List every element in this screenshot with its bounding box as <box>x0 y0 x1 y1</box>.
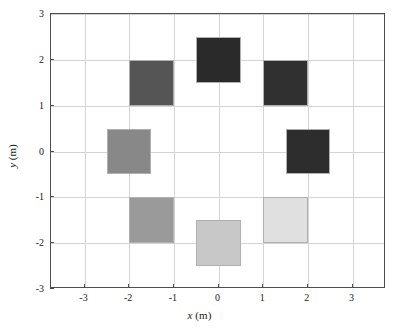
figure-canvas: -3-2-10123 -3-2-10123 x (m) y (m) <box>0 0 399 329</box>
y-tick-label: -1 <box>20 191 44 202</box>
x-tick-label: -3 <box>79 292 87 303</box>
x-axis-label: x (m) <box>0 309 399 321</box>
y-axis-label-unit: (m) <box>6 144 18 160</box>
data-square-right-middle <box>286 129 331 175</box>
x-tick-label: -2 <box>124 292 132 303</box>
gridline-vertical <box>174 14 175 287</box>
x-tick-label: 2 <box>304 292 309 303</box>
x-tick-mark <box>218 284 219 288</box>
x-tick-mark <box>128 284 129 288</box>
x-tick-label: 3 <box>349 292 354 303</box>
y-tick-label: 1 <box>20 99 44 110</box>
data-square-upper-left <box>129 60 174 106</box>
data-square-left-middle <box>107 129 152 175</box>
gridline-vertical <box>263 14 264 287</box>
x-tick-mark <box>352 284 353 288</box>
y-tick-label: -2 <box>20 237 44 248</box>
x-tick-label: 1 <box>260 292 265 303</box>
data-square-lower-right <box>263 197 308 243</box>
x-tick-label: 0 <box>215 292 220 303</box>
gridline-vertical <box>353 14 354 287</box>
y-tick-label: 0 <box>20 145 44 156</box>
y-tick-mark <box>50 105 54 106</box>
data-square-bottom-center <box>196 220 241 266</box>
y-tick-label: 3 <box>20 8 44 19</box>
x-tick-mark <box>307 284 308 288</box>
gridline-horizontal <box>51 152 384 153</box>
y-tick-mark <box>50 196 54 197</box>
y-tick-label: -3 <box>20 283 44 294</box>
x-axis-label-unit: (m) <box>195 309 211 321</box>
y-axis-label: y (m) <box>6 126 18 186</box>
data-square-lower-left <box>129 197 174 243</box>
gridline-horizontal <box>51 106 384 107</box>
x-tick-label: -1 <box>169 292 177 303</box>
y-tick-mark <box>50 242 54 243</box>
y-tick-mark <box>50 151 54 152</box>
data-square-top-center <box>196 37 241 83</box>
gridline-vertical <box>85 14 86 287</box>
y-tick-mark <box>50 59 54 60</box>
y-axis-label-variable: y <box>6 163 18 168</box>
y-tick-mark <box>50 288 54 289</box>
x-tick-mark <box>173 284 174 288</box>
plot-area <box>50 13 385 288</box>
y-tick-mark <box>50 13 54 14</box>
gridline-horizontal <box>51 197 384 198</box>
x-tick-mark <box>262 284 263 288</box>
data-square-upper-right <box>263 60 308 106</box>
gridline-horizontal <box>51 14 384 15</box>
x-tick-mark <box>84 284 85 288</box>
y-tick-label: 2 <box>20 53 44 64</box>
